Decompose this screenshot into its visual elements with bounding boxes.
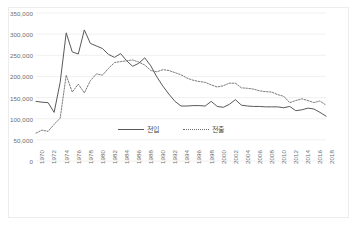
x-tick-label: 1988 xyxy=(147,150,154,164)
x-tick-label: 2010 xyxy=(280,150,287,164)
x-tick-label: 1978 xyxy=(87,150,94,164)
x-tick-label: 1992 xyxy=(171,150,178,164)
x-tick-label: 1984 xyxy=(123,150,130,164)
x-tick-label: 2008 xyxy=(268,150,275,164)
x-tick-label: 1982 xyxy=(111,150,118,164)
x-tick-label: 1998 xyxy=(208,150,215,164)
x-tick-label: 1986 xyxy=(135,150,142,164)
x-tick-label: 2004 xyxy=(244,150,251,164)
x-tick-label: 1970 xyxy=(38,150,45,164)
x-tick-label: 2002 xyxy=(232,150,239,164)
x-tick-label: 2000 xyxy=(220,150,227,164)
x-tick-label: 1976 xyxy=(75,150,82,164)
x-tick-label: 2018 xyxy=(328,150,335,164)
x-tick-label: 2006 xyxy=(256,150,263,164)
x-tick-label: 1972 xyxy=(50,150,57,164)
x-tick-label: 2016 xyxy=(316,150,323,164)
x-tick-label: 2012 xyxy=(292,150,299,164)
x-tick-label: 1974 xyxy=(63,150,70,164)
x-tick-label: 1994 xyxy=(183,150,190,164)
x-tick-label: 1990 xyxy=(159,150,166,164)
x-tick-label: 2014 xyxy=(304,150,311,164)
x-axis-tick-labels: 1970197219741976197819801982198419861988… xyxy=(0,0,362,233)
x-tick-label: 1980 xyxy=(99,150,106,164)
x-tick-label: 1996 xyxy=(195,150,202,164)
